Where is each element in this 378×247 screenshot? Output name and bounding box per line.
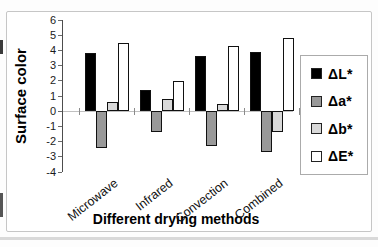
bar — [140, 90, 151, 111]
scan-artifact-mark — [0, 193, 3, 217]
legend-swatch — [311, 68, 322, 79]
legend-swatch — [311, 151, 322, 162]
legend-label: Δa* — [328, 93, 352, 109]
scan-artifact-streak — [0, 237, 378, 240]
y-tick-label: 1 — [24, 90, 56, 103]
legend-item: ΔL* — [311, 66, 367, 82]
y-tick-label: -4 — [24, 166, 56, 179]
bar — [250, 52, 261, 111]
y-tick-mark — [58, 50, 62, 51]
bar — [283, 38, 294, 111]
y-tick-label: 2 — [24, 74, 56, 87]
bar — [96, 111, 107, 147]
scan-artifact-mark — [0, 40, 3, 54]
y-tick-mark — [58, 80, 62, 81]
y-tick-label: -2 — [24, 135, 56, 148]
plot-area — [62, 20, 293, 172]
bar — [206, 111, 217, 146]
bar — [107, 102, 118, 111]
y-tick-label: 0 — [24, 105, 56, 118]
y-tick-mark — [58, 65, 62, 66]
y-tick-mark — [58, 126, 62, 127]
bar — [85, 53, 96, 111]
legend-swatch — [311, 123, 322, 134]
bar — [217, 104, 228, 112]
y-tick-mark — [58, 35, 62, 36]
legend-label: ΔE* — [328, 148, 353, 164]
y-tick-label: 3 — [24, 59, 56, 72]
category-axis-tick — [244, 108, 245, 115]
legend-item: Δb* — [311, 121, 367, 137]
legend-label: ΔL* — [328, 66, 353, 82]
y-tick-mark — [58, 111, 62, 112]
figure-canvas: Surface color Different drying methods Δ… — [0, 0, 378, 247]
bar — [151, 111, 162, 132]
y-tick-label: 5 — [24, 29, 56, 42]
y-tick-mark — [58, 156, 62, 157]
bar — [261, 111, 272, 152]
y-tick-label: 4 — [24, 44, 56, 57]
y-tick-mark — [58, 172, 62, 173]
bar — [195, 56, 206, 111]
bar — [272, 111, 283, 132]
legend-swatch — [311, 96, 322, 107]
category-axis-tick — [79, 108, 80, 115]
legend-item: ΔE* — [311, 148, 367, 164]
category-axis-tick — [189, 108, 190, 115]
bar — [173, 81, 184, 111]
bar — [228, 46, 239, 111]
y-tick-label: -1 — [24, 120, 56, 133]
bar — [162, 99, 173, 111]
legend-label: Δb* — [328, 121, 353, 137]
y-tick-mark — [58, 96, 62, 97]
bar — [118, 43, 129, 111]
y-tick-label: -3 — [24, 150, 56, 163]
legend-item: Δa* — [311, 93, 367, 109]
y-tick-mark — [58, 141, 62, 142]
y-tick-mark — [58, 20, 62, 21]
y-tick-label: 6 — [24, 14, 56, 27]
category-axis-tick — [134, 108, 135, 115]
legend-box: ΔL*Δa*Δb*ΔE* — [300, 55, 368, 175]
